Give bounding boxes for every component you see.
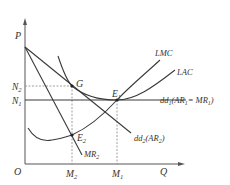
- point-e2: [70, 133, 73, 136]
- x-axis-label: Q: [160, 166, 168, 177]
- dd1-label: dd1(AR1= MR1): [160, 95, 214, 106]
- n1-label: N1: [11, 96, 22, 107]
- m2-label: M2: [65, 169, 78, 180]
- mr2-label: MR2: [83, 149, 99, 160]
- guide-lines: [25, 86, 117, 164]
- e1-label: E1: [111, 89, 121, 100]
- mr2-curve: [25, 47, 82, 155]
- x-axis-arrow-icon: [178, 162, 185, 166]
- y-axis-arrow-icon: [23, 18, 27, 25]
- n2-label: N2: [11, 82, 22, 93]
- lac-label: LAC: [176, 67, 193, 77]
- lmc-label: LMC: [154, 48, 173, 58]
- dd2-label: dd2(AR2): [134, 133, 165, 144]
- origin-label: O: [14, 166, 21, 177]
- e2-label: E2: [76, 133, 87, 144]
- y-axis-label: P: [14, 30, 21, 41]
- m1-label: M1: [111, 169, 123, 180]
- g-label: G: [76, 78, 83, 89]
- point-g: [70, 84, 73, 87]
- monopolistic-competition-diagram: P Q O N2 N1 M2 M1 G E1 E2 LMC LAC MR2 dd…: [0, 0, 230, 185]
